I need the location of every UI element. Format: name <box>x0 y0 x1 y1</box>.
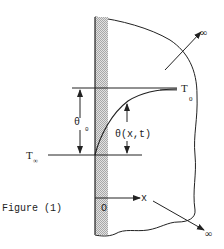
semi-infinite-solid-diagram: T 0 T ∞ θ 0 θ(x,t) x O ∞ ∞ Figure (1) <box>0 0 224 249</box>
t-surface-subscript: 0 <box>189 95 193 103</box>
t-ambient-subscript: ∞ <box>33 157 38 165</box>
infinity-label-lower: ∞ <box>205 228 212 239</box>
t-surface-label: T <box>181 82 188 94</box>
x-axis-label: x <box>141 193 147 204</box>
origin-label: O <box>101 203 107 214</box>
infinity-label-upper: ∞ <box>200 27 207 38</box>
t-ambient-label: T <box>26 149 33 161</box>
theta0-label: θ <box>74 117 80 128</box>
infinity-arrow-lower <box>153 201 204 230</box>
infinity-arrow-upper <box>165 32 201 70</box>
theta-xt-label: θ(x,t) <box>115 129 151 140</box>
theta0-subscript: 0 <box>85 126 89 133</box>
figure-caption: Figure (1) <box>2 203 62 214</box>
